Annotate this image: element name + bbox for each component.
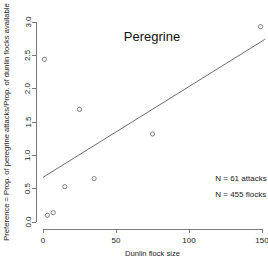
y-axis-label: Preference = Prop. of peregrine attacks/… [2, 3, 11, 240]
chart-annotation: N = 455 flocks [215, 190, 266, 199]
plot-canvas: 0.00.51.01.52.02.53.0050100150 Peregrine… [0, 0, 268, 261]
x-axis-tick-label: 100 [182, 236, 196, 245]
y-axis-tick-label: 2.5 [24, 49, 33, 61]
x-axis-tick-label: 150 [255, 236, 268, 245]
y-axis-tick-label: 3.0 [24, 16, 33, 28]
y-axis-tick-label: 1.5 [24, 116, 33, 128]
y-axis-tick-label: 0.5 [24, 183, 33, 195]
y-axis-tick-label: 2.0 [24, 83, 33, 95]
x-axis-label: Dunlin flock size [125, 249, 180, 258]
chart-title: Peregrine [124, 29, 180, 44]
y-axis-tick-label: 0.0 [24, 216, 33, 228]
scatter-plot-figure: 0.00.51.01.52.02.53.0050100150 Peregrine… [0, 0, 268, 261]
x-axis-tick-label: 50 [112, 236, 121, 245]
y-axis-tick-label: 1.0 [24, 149, 33, 161]
chart-annotation: N = 61 attacks [215, 174, 266, 183]
x-axis-tick-label: 0 [41, 236, 46, 245]
